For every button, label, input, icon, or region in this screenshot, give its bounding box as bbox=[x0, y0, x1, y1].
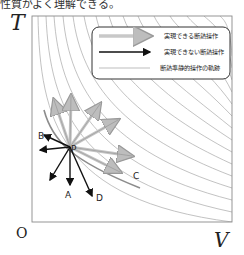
adiabatic-diagram: 実現できる断熱操作 実現できない断熱操作 断熱準静的操作の軌跡 P B A C … bbox=[0, 0, 244, 255]
point-label-c: C bbox=[133, 171, 139, 181]
point-label-d: D bbox=[96, 193, 103, 203]
legend: 実現できる断熱操作 実現できない断熱操作 断熱準静的操作の軌跡 bbox=[92, 27, 230, 79]
impossible-arrows bbox=[40, 135, 92, 196]
point-label-p: P bbox=[71, 144, 77, 154]
point-label-a: A bbox=[65, 190, 72, 200]
legend-label-possible: 実現できる断熱操作 bbox=[164, 32, 218, 40]
legend-label-quasistatic: 断熱準静的操作の軌跡 bbox=[160, 64, 221, 72]
point-label-b: B bbox=[38, 131, 44, 141]
legend-label-impossible: 実現できない断熱操作 bbox=[164, 48, 224, 56]
